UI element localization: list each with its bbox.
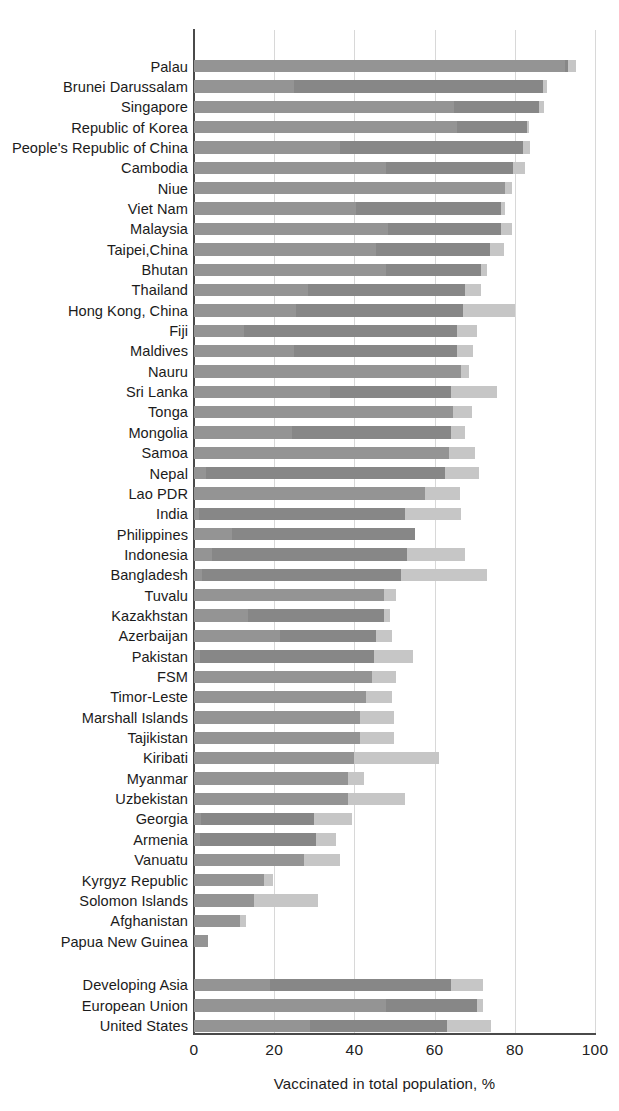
bar-row: Hong Kong, China <box>194 304 595 316</box>
category-label: Kyrgyz Republic <box>4 873 188 889</box>
bar-segment-s1 <box>194 854 304 866</box>
category-label: Developing Asia <box>4 977 188 993</box>
x-tick-0: 0 <box>190 1041 199 1059</box>
bar-segment-s2 <box>388 223 500 235</box>
bar-row: Afghanistan <box>194 915 595 927</box>
bar-segment-s2 <box>310 1020 446 1032</box>
bar-segment-s1 <box>194 60 565 72</box>
category-label: People's Republic of China <box>4 140 188 156</box>
bar-segment-s3 <box>384 609 390 621</box>
bar-segment-s1 <box>194 528 232 540</box>
stacked-bar <box>194 691 392 703</box>
bar-segment-s3 <box>523 141 530 153</box>
bar-segment-s2 <box>201 813 314 825</box>
bar-segment-s2 <box>308 284 464 296</box>
bar-segment-s3 <box>374 650 412 662</box>
stacked-bar <box>194 833 336 845</box>
bar-row: Nauru <box>194 365 595 377</box>
x-tick-80: 80 <box>506 1041 524 1059</box>
bar-row: Solomon Islands <box>194 894 595 906</box>
bar-segment-s3 <box>445 467 479 479</box>
bar-segment-s3 <box>451 386 497 398</box>
bar-segment-s3 <box>425 487 460 499</box>
bar-row: Armenia <box>194 833 595 845</box>
stacked-bar <box>194 752 439 764</box>
stacked-bar <box>194 60 576 72</box>
bar-row: Vanuatu <box>194 854 595 866</box>
bar-segment-s3 <box>401 569 487 581</box>
bar-row: Viet Nam <box>194 202 595 214</box>
stacked-bar <box>194 487 460 499</box>
category-label: Tonga <box>4 404 188 420</box>
x-axis-title-text: Vaccinated in total population, % <box>124 1075 495 1092</box>
bar-segment-s3 <box>304 854 340 866</box>
bar-segment-s3 <box>447 1020 491 1032</box>
bar-segment-s3 <box>513 162 525 174</box>
bar-segment-s1 <box>194 304 296 316</box>
category-label: Tuvalu <box>4 588 188 604</box>
bar-segment-s2 <box>200 833 316 845</box>
stacked-bar <box>194 793 405 805</box>
category-label: Nepal <box>4 466 188 482</box>
bar-segment-s1 <box>194 141 340 153</box>
bar-segment-s3 <box>240 915 246 927</box>
category-label: India <box>4 506 188 522</box>
category-label: Nauru <box>4 364 188 380</box>
bar-segment-s2 <box>454 101 539 113</box>
stacked-bar <box>194 304 515 316</box>
bar-segment-s2 <box>294 80 543 92</box>
stacked-bar <box>194 243 504 255</box>
bar-row: FSM <box>194 671 595 683</box>
category-label: Malaysia <box>4 221 188 237</box>
bar-segment-s1 <box>194 80 294 92</box>
bar-row: India <box>194 508 595 520</box>
category-label: Lao PDR <box>4 486 188 502</box>
bar-segment-s3 <box>453 406 472 418</box>
bar-segment-s1 <box>194 630 280 642</box>
bar-segment-s3 <box>451 979 483 991</box>
stacked-bar <box>194 182 512 194</box>
category-label: Thailand <box>4 282 188 298</box>
bar-segment-s2 <box>206 467 445 479</box>
category-label: Indonesia <box>4 547 188 563</box>
stacked-bar <box>194 772 364 784</box>
stacked-bar <box>194 854 340 866</box>
bar-row: People's Republic of China <box>194 141 595 153</box>
bar-row: Fiji <box>194 325 595 337</box>
bar-segment-s3 <box>407 548 465 560</box>
bar-segment-s2 <box>376 243 489 255</box>
x-axis-title: Vaccinated in total population, % <box>0 1075 619 1092</box>
bar-row: Philippines <box>194 528 595 540</box>
category-label: Sri Lanka <box>4 384 188 400</box>
bar-segment-s3 <box>568 60 576 72</box>
stacked-bar <box>194 141 530 153</box>
bar-segment-s1 <box>194 182 505 194</box>
bar-segment-s1 <box>194 691 366 703</box>
bar-segment-s3 <box>451 426 465 438</box>
bar-row: Myanmar <box>194 772 595 784</box>
bar-row: Papua New Guinea <box>194 935 595 947</box>
bar-segment-s1 <box>194 406 453 418</box>
bar-segment-s3 <box>360 711 394 723</box>
stacked-bar <box>194 264 487 276</box>
bar-row: Singapore <box>194 101 595 113</box>
x-tick-60: 60 <box>426 1041 444 1059</box>
bar-segment-s1 <box>194 935 208 947</box>
category-label: Armenia <box>4 832 188 848</box>
bar-segment-s3 <box>543 80 547 92</box>
bar-segment-s1 <box>194 426 292 438</box>
stacked-bar <box>194 813 352 825</box>
category-label: Republic of Korea <box>4 120 188 136</box>
bar-row: Pakistan <box>194 650 595 662</box>
bar-segment-s3 <box>348 772 364 784</box>
bar-segment-s1 <box>194 202 356 214</box>
bar-segment-s1 <box>194 732 360 744</box>
category-label: Solomon Islands <box>4 893 188 909</box>
bar-segment-s2 <box>296 304 462 316</box>
bar-row: Tuvalu <box>194 589 595 601</box>
bar-segment-s3 <box>527 121 529 133</box>
bar-row: Tonga <box>194 406 595 418</box>
bar-segment-s1 <box>194 711 360 723</box>
category-label: Brunei Darussalam <box>4 79 188 95</box>
x-tick-40: 40 <box>346 1041 364 1059</box>
